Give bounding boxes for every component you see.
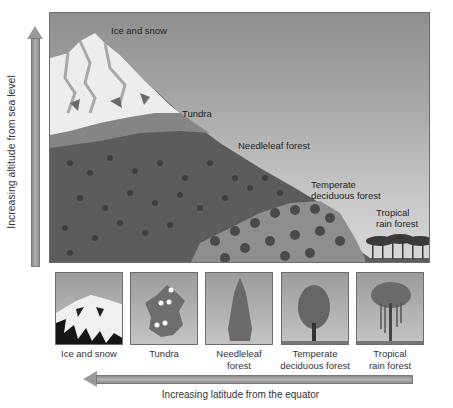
- mountain-illustration: Ice and snow Tundra Needleleaf forest Te…: [49, 12, 430, 263]
- label-line2: rain forest: [345, 360, 435, 372]
- zone-label-tundra: Tundra: [182, 108, 212, 119]
- zone-label-line2: rain forest: [376, 218, 418, 229]
- zone-label-temperate-deciduous-forest: Temperate deciduous forest: [311, 179, 381, 201]
- conifer-tree-icon: [206, 273, 273, 345]
- zone-label-needleleaf-forest: Needleleaf forest: [238, 140, 310, 151]
- label-line1: Tropical: [345, 348, 435, 360]
- latitude-axis-label: Increasing latitude from the equator: [0, 389, 453, 400]
- thumbnail-tropical-rain-forest: [356, 272, 424, 345]
- tundra-flower-icon: [131, 273, 198, 345]
- zone-label-line1: Temperate: [311, 179, 381, 190]
- zone-label-ice-and-snow: Ice and snow: [111, 25, 167, 36]
- thumbnail-label-tropical-rain-forest: Tropical rain forest: [345, 348, 435, 372]
- mountain-landscape-icon: [50, 13, 430, 263]
- altitude-axis-label: Increasing altitude from sea level: [5, 75, 17, 229]
- latitude-arrow-head-icon: [83, 371, 97, 387]
- zone-label-line2: deciduous forest: [311, 190, 381, 201]
- thumbnail-tundra: [130, 272, 198, 345]
- zone-label-line1: Tropical: [376, 207, 418, 218]
- rainforest-tree-icon: [357, 273, 424, 345]
- latitude-arrow-shaft: [96, 375, 413, 384]
- snowy-peak-icon: [56, 273, 123, 345]
- deciduous-tree-icon: [282, 273, 349, 345]
- altitude-arrow-shaft: [31, 38, 40, 267]
- thumbnail-temperate-deciduous-forest: [281, 272, 349, 345]
- thumbnail-needleleaf-forest: [205, 272, 273, 345]
- zone-label-tropical-rain-forest: Tropical rain forest: [376, 207, 418, 229]
- thumbnail-ice-and-snow: [55, 272, 123, 345]
